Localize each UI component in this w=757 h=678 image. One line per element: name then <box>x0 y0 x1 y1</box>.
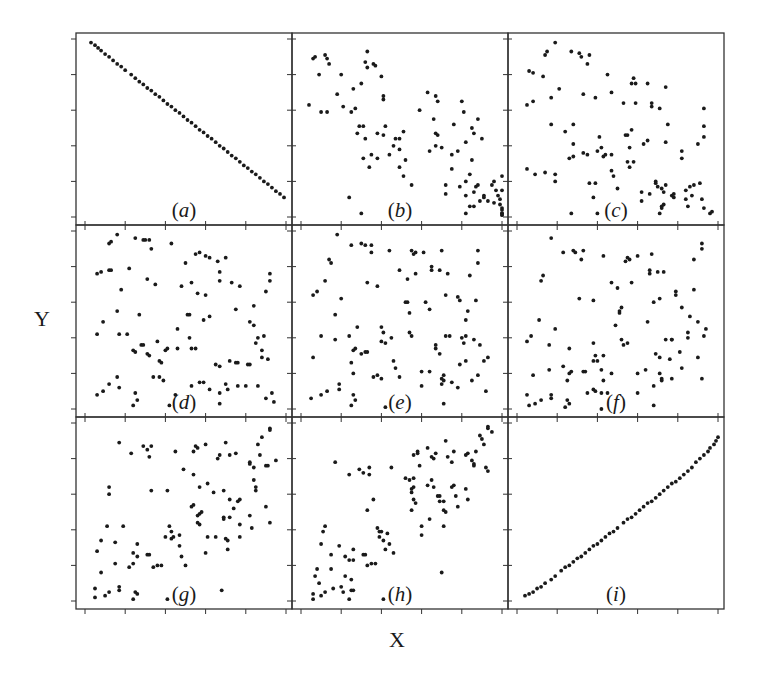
data-point <box>549 578 553 582</box>
data-point <box>216 259 220 263</box>
data-point <box>660 379 664 383</box>
data-point <box>553 180 557 184</box>
data-point <box>414 272 418 276</box>
data-point <box>452 450 456 454</box>
data-point <box>577 51 581 55</box>
data-point <box>547 368 551 372</box>
data-point <box>117 585 121 589</box>
data-point <box>158 375 162 379</box>
panel-a: (a) <box>71 33 292 230</box>
data-point <box>194 347 198 351</box>
data-point <box>716 435 720 439</box>
data-point <box>238 498 242 502</box>
data-point <box>450 460 454 464</box>
data-point <box>690 466 694 470</box>
data-point <box>450 167 454 171</box>
data-point <box>218 270 222 274</box>
data-point <box>682 473 686 477</box>
data-point <box>581 151 585 155</box>
data-point <box>95 393 99 397</box>
data-point <box>242 164 246 168</box>
data-point <box>196 446 200 450</box>
data-point <box>708 446 712 450</box>
data-point <box>702 124 706 128</box>
data-point <box>586 62 590 66</box>
data-point <box>343 555 347 559</box>
data-point <box>486 426 490 430</box>
data-point <box>430 478 434 482</box>
data-point <box>402 130 406 134</box>
data-point <box>226 539 230 543</box>
data-point <box>652 384 656 388</box>
data-point <box>450 380 454 384</box>
data-point <box>500 208 504 212</box>
data-point <box>594 389 598 393</box>
data-point <box>367 473 371 477</box>
data-point <box>398 375 402 379</box>
data-point <box>658 356 662 360</box>
data-point <box>468 204 472 208</box>
data-point <box>170 105 174 109</box>
data-point <box>446 455 450 459</box>
data-point <box>337 388 341 392</box>
scatter-matrix-figure: (a)(b)(c)(d)(e)(f)(g)(h)(i) <box>0 0 757 678</box>
data-point <box>662 489 666 493</box>
data-point <box>370 243 374 247</box>
data-point <box>252 323 256 327</box>
data-point <box>115 375 119 379</box>
data-point <box>573 251 577 255</box>
data-point <box>184 564 188 568</box>
data-point <box>166 489 170 493</box>
data-point <box>363 243 367 247</box>
data-point <box>618 309 622 313</box>
data-point <box>527 404 531 408</box>
data-point <box>262 334 266 338</box>
data-point <box>228 498 232 502</box>
data-point <box>147 238 151 242</box>
data-point <box>258 176 262 180</box>
data-point <box>426 446 430 450</box>
data-point <box>470 126 474 130</box>
data-point <box>476 249 480 253</box>
data-point <box>492 201 496 205</box>
data-point <box>630 281 634 285</box>
data-point <box>658 372 662 376</box>
data-point <box>194 252 198 256</box>
data-point <box>341 590 345 594</box>
data-point <box>380 325 384 329</box>
data-point <box>347 196 351 200</box>
data-point <box>264 505 268 509</box>
data-point <box>480 137 484 141</box>
data-point <box>686 331 690 335</box>
data-point <box>311 356 315 360</box>
data-point <box>654 496 658 500</box>
data-point <box>592 544 596 548</box>
data-point <box>363 137 367 141</box>
data-point <box>270 186 274 190</box>
data-point <box>571 142 575 146</box>
data-point <box>484 466 488 470</box>
data-point <box>264 396 268 400</box>
data-point <box>166 102 170 106</box>
data-point <box>628 146 632 150</box>
data-point <box>628 258 632 262</box>
data-point <box>382 98 386 102</box>
data-point <box>432 485 436 489</box>
data-point <box>632 160 636 164</box>
data-point <box>586 153 590 157</box>
data-point <box>636 254 640 258</box>
panel-h: (h) <box>287 417 508 614</box>
data-point <box>636 372 640 376</box>
data-point <box>131 348 135 352</box>
data-point <box>220 588 224 592</box>
data-point <box>470 379 474 383</box>
data-point <box>420 524 424 528</box>
data-point <box>464 194 468 198</box>
data-point <box>579 555 583 559</box>
data-point <box>579 55 583 59</box>
data-point <box>204 443 208 447</box>
data-point <box>218 279 222 283</box>
data-point <box>394 366 398 370</box>
data-point <box>258 453 262 457</box>
data-point <box>432 117 436 121</box>
